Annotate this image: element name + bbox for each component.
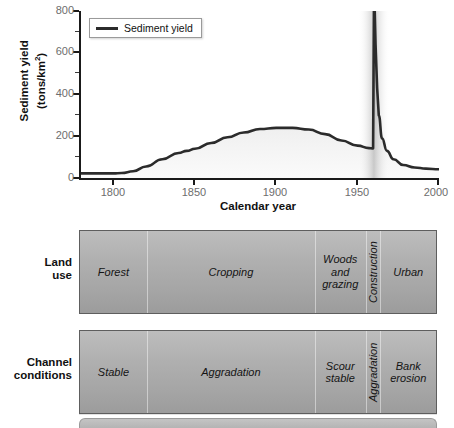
legend-label: Sediment yield <box>124 22 193 34</box>
land-use-label-line1: Land <box>45 256 72 268</box>
x-tick-1950 <box>356 179 358 185</box>
land-use-segment: Forest <box>80 231 147 313</box>
y-tick-minor-300 <box>75 114 79 115</box>
channel-conditions-segment: Stable <box>80 331 147 413</box>
sediment-yield-chart: 800 600 400 200 0 1800 1850 1900 1950 20… <box>0 0 454 215</box>
channel-conditions-row-label: Channel conditions <box>0 356 72 382</box>
x-tick-1800 <box>112 179 114 185</box>
channel-conditions-label-line1: Channel <box>27 356 72 368</box>
channel-conditions-segment: Aggradation <box>366 331 381 413</box>
land-use-segment: Woods and grazing <box>315 231 366 313</box>
x-tick-1900 <box>274 179 276 185</box>
y-tick-minor-700 <box>75 31 79 32</box>
legend-line-swatch-icon <box>96 27 118 30</box>
third-bar-separator <box>79 414 437 415</box>
x-axis-title: Calendar year <box>79 200 437 212</box>
land-use-segment-divider <box>380 231 381 313</box>
y-axis-title-line2-pre: (tons/km <box>35 61 47 109</box>
land-use-segment: Construction <box>366 231 381 313</box>
land-use-label-line2: use <box>52 269 72 281</box>
land-use-segment-divider <box>315 231 316 313</box>
x-tick-label-1850: 1850 <box>174 186 214 198</box>
channel-conditions-label-line2: conditions <box>14 369 72 381</box>
x-tick-label-1900: 1900 <box>255 186 295 198</box>
y-axis-title-line1: Sediment yield <box>18 40 30 121</box>
channel-conditions-bar: StableAggradationScour stableAggradation… <box>79 330 437 414</box>
land-use-segment-divider <box>147 231 148 313</box>
channel-conditions-segment-divider <box>147 331 148 413</box>
land-use-bar: ForestCroppingWoods and grazingConstruct… <box>79 230 437 314</box>
channel-conditions-segment: Aggradation <box>147 331 315 413</box>
channel-conditions-segment-divider <box>380 331 381 413</box>
land-use-row-label: Land use <box>0 256 72 282</box>
channel-conditions-segment-divider <box>366 331 367 413</box>
y-axis-title-superscript: 2 <box>33 57 42 61</box>
channel-conditions-segment-divider <box>315 331 316 413</box>
y-tick-minor-500 <box>75 72 79 73</box>
x-tick-label-1950: 1950 <box>337 186 377 198</box>
channel-conditions-row: Channel conditions StableAggradationScou… <box>0 330 454 414</box>
land-use-segment: Cropping <box>147 231 315 313</box>
y-tick-label-0: 0 <box>68 171 74 183</box>
land-use-row: Land use ForestCroppingWoods and grazing… <box>0 230 454 314</box>
x-tick-2000 <box>437 179 439 185</box>
x-tick-label-1800: 1800 <box>93 186 133 198</box>
third-bar-partial <box>79 418 437 428</box>
y-tick-minor-100 <box>75 156 79 157</box>
land-use-segment-divider <box>366 231 367 313</box>
x-tick-label-2000: 2000 <box>416 186 454 198</box>
x-tick-1850 <box>193 179 195 185</box>
channel-conditions-segment: Bank erosion <box>380 331 436 413</box>
land-use-segment: Urban <box>380 231 436 313</box>
chart-legend: Sediment yield <box>89 18 202 38</box>
y-tick-label-400: 400 <box>56 87 74 99</box>
y-tick-label-200: 200 <box>56 129 74 141</box>
y-tick-label-600: 600 <box>56 45 74 57</box>
y-tick-label-800: 800 <box>56 4 74 16</box>
y-axis-title-line2-post: ) <box>35 53 47 57</box>
y-axis-title: Sediment yield (tons/km2) <box>18 21 48 141</box>
channel-conditions-segment: Scour stable <box>315 331 366 413</box>
